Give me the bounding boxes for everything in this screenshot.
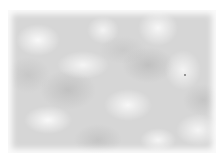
cloud-noise-texture bbox=[8, 10, 216, 153]
dark-speck bbox=[184, 74, 186, 76]
image-canvas bbox=[0, 0, 223, 161]
